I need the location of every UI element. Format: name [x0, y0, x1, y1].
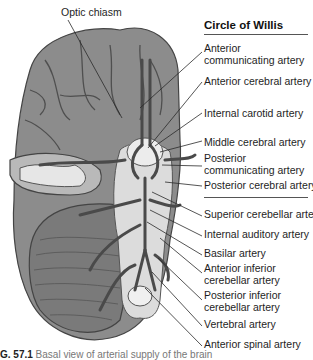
- figure-caption: G. 57.1 Basal view of arterial supply of…: [0, 349, 212, 360]
- label-middle-cerebral-artery: Middle cerebral artery: [204, 137, 306, 149]
- figure-number: G. 57.1: [0, 349, 33, 360]
- title-divider: [204, 34, 308, 35]
- label-posterior-cerebral-artery: Posterior cerebral artery: [204, 180, 313, 192]
- label-anterior-cerebral-artery: Anterior cerebral artery: [204, 76, 311, 88]
- label-anterior-communicating-artery: Anterior communicating artery: [204, 43, 304, 66]
- spinal-cord: [128, 286, 152, 306]
- label-optic-chiasm: Optic chiasm: [61, 7, 122, 19]
- label-internal-carotid-artery: Internal carotid artery: [204, 108, 303, 120]
- caption-text: Basal view of arterial supply of the bra…: [36, 349, 213, 360]
- label-posterior-communicating-artery: Posterior communicating artery: [204, 153, 304, 176]
- diagram-title: Circle of Willis: [204, 19, 283, 31]
- label-basilar-artery: Basilar artery: [204, 248, 266, 260]
- section-divider: [204, 197, 308, 198]
- circle-of-willis-diagram: Optic chiasm Circle of Willis Anterior c…: [0, 0, 313, 360]
- label-vertebral-artery: Vertebral artery: [204, 319, 276, 331]
- label-superior-cerebellar-artery: Superior cerebellar artery: [204, 209, 313, 221]
- label-internal-auditory-artery: Internal auditory artery: [204, 229, 309, 241]
- label-posterior-inferior-cerebellar-artery: Posterior inferior cerebellar artery: [204, 290, 281, 313]
- label-anterior-spinal-artery: Anterior spinal artery: [204, 339, 301, 351]
- label-anterior-inferior-cerebellar-artery: Anterior inferior cerebellar artery: [204, 263, 280, 286]
